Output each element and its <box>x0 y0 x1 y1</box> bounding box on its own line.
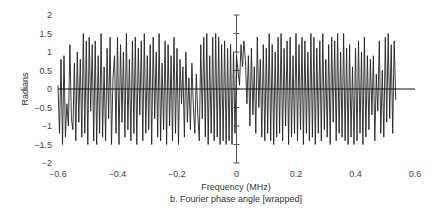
x-axis-tick-labels: −0.6−0.4−0.200.20.40.6 <box>49 169 421 179</box>
y-axis-label: Radians <box>20 72 30 106</box>
x-tick-label: −0.2 <box>168 169 186 179</box>
y-tick-label: −0.5 <box>34 103 52 113</box>
y-tick-label: −2 <box>42 158 52 168</box>
phase-chart: 21.510.50−0.5−1−1.5−2 −0.6−0.4−0.200.20.… <box>0 0 446 212</box>
x-tick-label: 0.4 <box>349 169 362 179</box>
x-tick-label: 0.6 <box>409 169 422 179</box>
x-tick-label: −0.4 <box>109 169 127 179</box>
figure-caption: b. Fourier phase angle [wrapped] <box>170 194 302 204</box>
y-tick-label: 0 <box>47 84 52 94</box>
x-axis-label: Frequency (MHz) <box>201 182 271 192</box>
x-tick-label: 0 <box>234 169 239 179</box>
y-tick-label: −1 <box>42 121 52 131</box>
x-tick-label: 0.2 <box>290 169 303 179</box>
y-tick-label: −1.5 <box>34 140 52 150</box>
y-tick-label: 1 <box>47 47 52 57</box>
y-tick-label: 0.5 <box>39 66 52 76</box>
x-tick-label: −0.6 <box>49 169 67 179</box>
y-tick-label: 2 <box>47 10 52 20</box>
y-axis-tick-labels: 21.510.50−0.5−1−1.5−2 <box>34 10 52 168</box>
y-tick-label: 1.5 <box>39 29 52 39</box>
